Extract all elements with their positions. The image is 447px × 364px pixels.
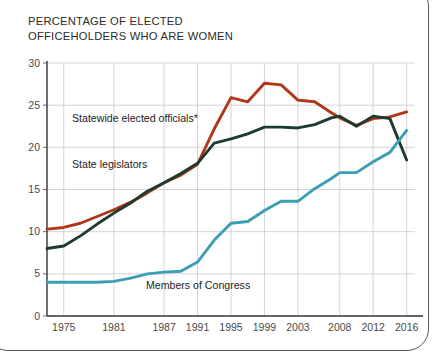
series-annotations: Statewide elected officials*State legisl… [72, 112, 250, 291]
x-tick-label: 2012 [362, 321, 386, 333]
x-tick-label: 1991 [186, 321, 210, 333]
y-tick-label: 25 [28, 99, 40, 111]
series-annotation: Members of Congress [146, 279, 250, 291]
series-annotation: Statewide elected officials* [72, 112, 198, 124]
x-axis: 1975198119871991199519992003200820122016 [47, 316, 423, 333]
y-tick-label: 15 [28, 183, 40, 195]
series-annotation: State legislators [72, 158, 147, 170]
x-tick-label: 2003 [286, 321, 310, 333]
x-tick-label: 1995 [219, 321, 243, 333]
x-tick-label: 1975 [52, 321, 76, 333]
plot-area: 051015202530 197519811987199119951999200… [0, 0, 447, 364]
x-tick-label: 1987 [152, 321, 176, 333]
y-axis: 051015202530 [28, 57, 47, 322]
chart-card: PERCENTAGE OF ELECTED OFFICEHOLDERS WHO … [0, 0, 447, 364]
x-tick-label: 1999 [253, 321, 277, 333]
series-line [47, 130, 407, 282]
y-tick-label: 5 [34, 267, 40, 279]
y-tick-label: 30 [28, 57, 40, 69]
x-tick-label: 1981 [102, 321, 126, 333]
y-tick-label: 20 [28, 141, 40, 153]
x-tick-label: 2016 [395, 321, 419, 333]
y-tick-label: 0 [34, 310, 40, 322]
line-chart-svg: 051015202530 197519811987199119951999200… [0, 0, 447, 364]
x-tick-label: 2008 [328, 321, 352, 333]
y-tick-label: 10 [28, 225, 40, 237]
